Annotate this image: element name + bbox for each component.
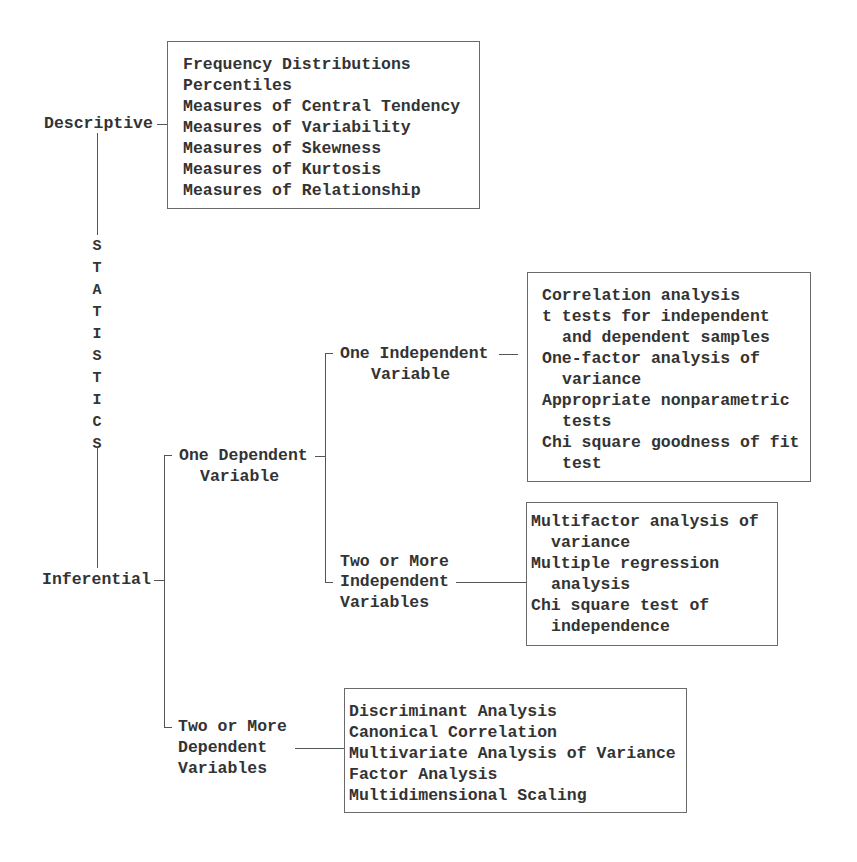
test-item: variance: [542, 369, 799, 390]
statistics-letter: I: [87, 324, 107, 346]
descriptive-item: Measures of Variability: [183, 117, 460, 138]
descriptive-item: Frequency Distributions: [183, 54, 460, 75]
test-item: Factor Analysis: [349, 764, 676, 785]
bracket-tick-two-independent: [325, 582, 333, 583]
statistics-letter: T: [87, 368, 107, 390]
one-independent-connector: [499, 354, 518, 355]
inferential-connector: [154, 580, 164, 581]
test-item: Chi square goodness of fit: [542, 432, 799, 453]
two-dependent-connector: [295, 748, 344, 749]
statistics-letter: T: [87, 302, 107, 324]
spine-upper-line: [97, 133, 98, 235]
descriptive-box: Frequency Distributions Percentiles Meas…: [167, 41, 480, 209]
two-independent-label-line1: Two or More: [340, 551, 449, 572]
descriptive-label: Descriptive: [44, 113, 153, 134]
two-independent-label-line2: Independent: [340, 571, 449, 592]
two-dependent-label-line2: Dependent: [178, 737, 267, 758]
test-item: Chi square test of: [531, 595, 759, 616]
two-dependent-label-line1: Two or More: [178, 716, 287, 737]
bracket-tick-one-dependent: [164, 455, 172, 456]
test-item: One-factor analysis of: [542, 348, 799, 369]
descriptive-item: Measures of Kurtosis: [183, 159, 460, 180]
test-item: Multiple regression: [531, 553, 759, 574]
test-item: Multifactor analysis of: [531, 511, 759, 532]
bracket-tick-two-dependent: [164, 727, 172, 728]
inferential-bracket: [164, 455, 165, 728]
one-dependent-label-line2: Variable: [200, 466, 279, 487]
test-item: independence: [531, 616, 759, 637]
test-item: Correlation analysis: [542, 285, 799, 306]
statistics-letter: S: [87, 236, 107, 258]
test-item: t tests for independent: [542, 306, 799, 327]
one-independent-box: Correlation analysis t tests for indepen…: [527, 272, 811, 482]
statistics-letter: I: [87, 390, 107, 412]
test-item: analysis: [531, 574, 759, 595]
test-item: tests: [542, 411, 799, 432]
one-independent-label-line2: Variable: [371, 364, 450, 385]
descriptive-item: Measures of Skewness: [183, 138, 460, 159]
spine-lower-line: [97, 446, 98, 568]
test-item: and dependent samples: [542, 327, 799, 348]
bracket-tick-one-independent: [325, 353, 333, 354]
two-independent-box: Multifactor analysis of variance Multipl…: [526, 502, 778, 646]
statistics-letter: S: [87, 346, 107, 368]
descriptive-item: Percentiles: [183, 75, 460, 96]
one-dependent-bracket: [325, 353, 326, 582]
statistics-letter: A: [87, 280, 107, 302]
descriptive-item: Measures of Central Tendency: [183, 96, 460, 117]
test-item: Discriminant Analysis: [349, 701, 676, 722]
statistics-letter: C: [87, 412, 107, 434]
inferential-label: Inferential: [42, 569, 151, 590]
test-item: test: [542, 453, 799, 474]
test-item: Multivariate Analysis of Variance: [349, 743, 676, 764]
test-item: Canonical Correlation: [349, 722, 676, 743]
test-item: variance: [531, 532, 759, 553]
descriptive-item: Measures of Relationship: [183, 180, 460, 201]
test-item: Multidimensional Scaling: [349, 785, 676, 806]
test-item: Appropriate nonparametric: [542, 390, 799, 411]
two-dependent-box: Discriminant Analysis Canonical Correlat…: [344, 688, 687, 813]
statistics-letter: T: [87, 258, 107, 280]
two-independent-connector: [456, 582, 527, 583]
two-independent-label-line3: Variables: [340, 592, 429, 613]
one-dependent-connector: [315, 456, 325, 457]
one-independent-label-line1: One Independent: [340, 343, 489, 364]
one-dependent-label-line1: One Dependent: [179, 445, 308, 466]
two-dependent-label-line3: Variables: [178, 758, 267, 779]
